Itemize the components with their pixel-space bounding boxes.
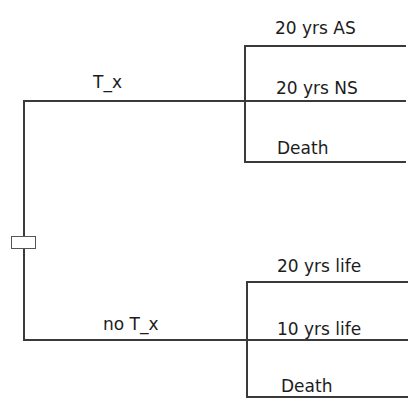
- outcome-line-treatment-3: [244, 161, 406, 163]
- branch-line-treatment: [23, 100, 246, 102]
- outcome-line-treatment-2: [244, 100, 406, 102]
- outcome-line-treatment-1: [244, 45, 406, 47]
- branch-line-no-treatment: [23, 339, 248, 341]
- outcome-label-treatment-3: Death: [277, 138, 328, 158]
- outcome-line-no-treatment-1: [246, 281, 408, 283]
- outcome-label-treatment-1: 20 yrs AS: [275, 18, 356, 38]
- outcome-label-treatment-2: 20 yrs NS: [276, 78, 358, 98]
- outcome-line-no-treatment-3: [246, 396, 408, 398]
- chance-bracket-treatment: [244, 45, 246, 163]
- outcome-label-no-treatment-3: Death: [281, 376, 332, 396]
- outcome-label-no-treatment-2: 10 yrs life: [277, 319, 361, 339]
- outcome-label-no-treatment-1: 20 yrs life: [277, 256, 361, 276]
- outcome-line-no-treatment-2: [246, 339, 408, 341]
- branch-label-treatment: T_x: [93, 72, 122, 92]
- branch-label-no-treatment: no T_x: [103, 314, 159, 334]
- decision-node: [11, 236, 36, 249]
- root-trunk-line: [23, 100, 25, 341]
